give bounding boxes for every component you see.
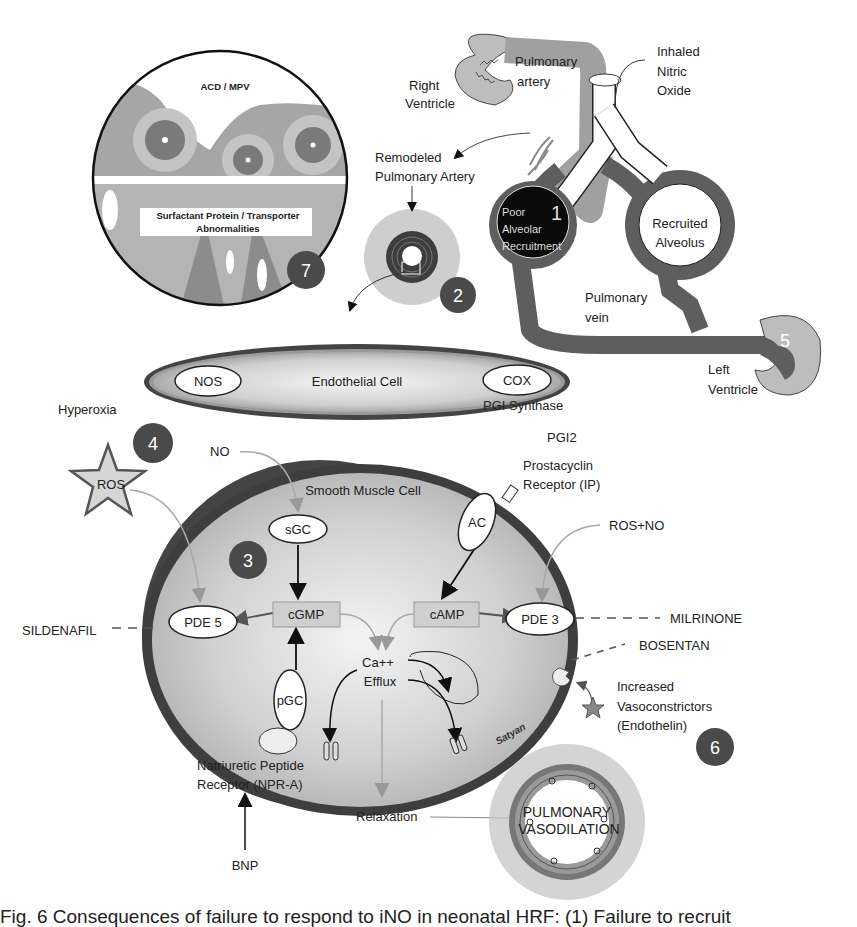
poor-recruitment-label-2: Alveolar <box>502 223 542 235</box>
right-ventricle-label-2: Ventricle <box>405 96 455 111</box>
pgc-label: pGC <box>277 693 304 708</box>
nos-label: NOS <box>194 374 223 389</box>
ion-channel-icon <box>333 742 338 760</box>
surfactant-label-line1: Surfactant Protein / Transporter <box>156 210 299 221</box>
smooth-muscle-title: Smooth Muscle Cell <box>305 483 421 498</box>
inhaled-no-label-2: Nitric <box>657 64 687 79</box>
bosentan-label: BOSENTAN <box>639 638 710 653</box>
badge-2-number: 2 <box>453 286 463 306</box>
right-ventricle-label-1: Right <box>409 78 440 93</box>
vasodilation-label-2: VASODILATION <box>518 821 619 837</box>
remodeled-artery-label-1: Remodeled <box>375 150 442 165</box>
lung-histology-inset: ACD / MPV Surfactant Protein / Transport… <box>90 50 350 314</box>
endothelial-cell-title: Endothelial Cell <box>312 374 402 389</box>
ca-efflux-label-1: Ca++ <box>362 655 394 670</box>
prostacyclin-receptor-icon <box>502 485 518 502</box>
left-ventricle-label-2: Ventricle <box>708 382 758 397</box>
pulmonary-vein-label-1: Pulmonary <box>585 290 648 305</box>
increased-vasoconstrictors-label-1: Increased <box>617 679 674 694</box>
inhaled-no-label-1: Inhaled <box>657 44 700 59</box>
camp-label: cAMP <box>430 607 465 622</box>
ros-label: ROS <box>97 477 126 492</box>
diagram-canvas: ACD / MPV Surfactant Protein / Transport… <box>0 0 857 927</box>
recruited-alveolus-label-2: Alveolus <box>655 235 705 250</box>
ac-label: AC <box>468 515 486 530</box>
increased-vasoconstrictors-label-2: Vasoconstrictors <box>617 699 713 714</box>
et1-star-icon <box>582 697 604 718</box>
badge-4-number: 4 <box>148 434 158 454</box>
pde5-label: PDE 5 <box>184 615 222 630</box>
figure-caption: Fig. 6 Consequences of failure to respon… <box>0 906 857 927</box>
badge-1-number: 1 <box>551 202 562 224</box>
badge-5-number: 5 <box>780 331 790 351</box>
ion-channel-icon <box>324 742 329 760</box>
prostacyclin-receptor-label-2: Receptor (IP) <box>523 477 600 492</box>
remodeled-artery-label-2: Pulmonary Artery <box>375 169 475 184</box>
npr-receptor-icon <box>259 728 297 754</box>
pulmonary-vein-label-2: vein <box>585 310 609 325</box>
recruited-alveolus-label-1: Recruited <box>652 216 708 231</box>
acd-mpv-label: ACD / MPV <box>200 81 250 92</box>
pgi-synthase-label: PGI Synthase <box>483 398 563 413</box>
ros-no-label: ROS+NO <box>609 518 664 533</box>
npr-label-2: Receptor (NPR-A) <box>197 777 302 792</box>
left-ventricle-label-1: Left <box>708 362 730 377</box>
poor-recruitment-label-1: Poor <box>502 206 526 218</box>
hyperoxia-label: Hyperoxia <box>58 402 117 417</box>
increased-vasoconstrictors-label-3: (Endothelin) <box>617 718 687 733</box>
pulmonary-artery-label-2: artery <box>517 74 551 89</box>
remodeled-artery-crosssection: 2 <box>350 186 476 313</box>
pde3-label: PDE 3 <box>521 612 559 627</box>
sildenafil-label: SILDENAFIL <box>22 623 96 638</box>
bnp-label: BNP <box>232 858 259 873</box>
ca-efflux-label-2: Efflux <box>364 674 397 689</box>
milrinone-label: MILRINONE <box>670 611 743 626</box>
pgi2-label: PGI2 <box>547 430 577 445</box>
surfactant-label-line2: Abnormalities <box>196 223 259 234</box>
poor-recruitment-label-3: Recruitment <box>502 240 561 252</box>
badge-7-number: 7 <box>301 261 311 281</box>
pulmonary-artery-label-1: Pulmonary <box>515 54 578 69</box>
no-label: NO <box>210 444 230 459</box>
badge-6-number: 6 <box>710 738 720 758</box>
npr-label-1: Natriuretic Peptide <box>197 758 304 773</box>
cgmp-label: cGMP <box>288 607 324 622</box>
cox-label: COX <box>503 373 532 388</box>
vasodilation-label-1: PULMONARY <box>523 804 612 820</box>
sgc-label: sGC <box>285 522 311 537</box>
badge-3-number: 3 <box>243 551 253 571</box>
prostacyclin-receptor-label-1: Prostacyclin <box>523 458 593 473</box>
inhaled-no-label-3: Oxide <box>657 83 691 98</box>
relaxation-label: Relaxation <box>356 809 417 824</box>
